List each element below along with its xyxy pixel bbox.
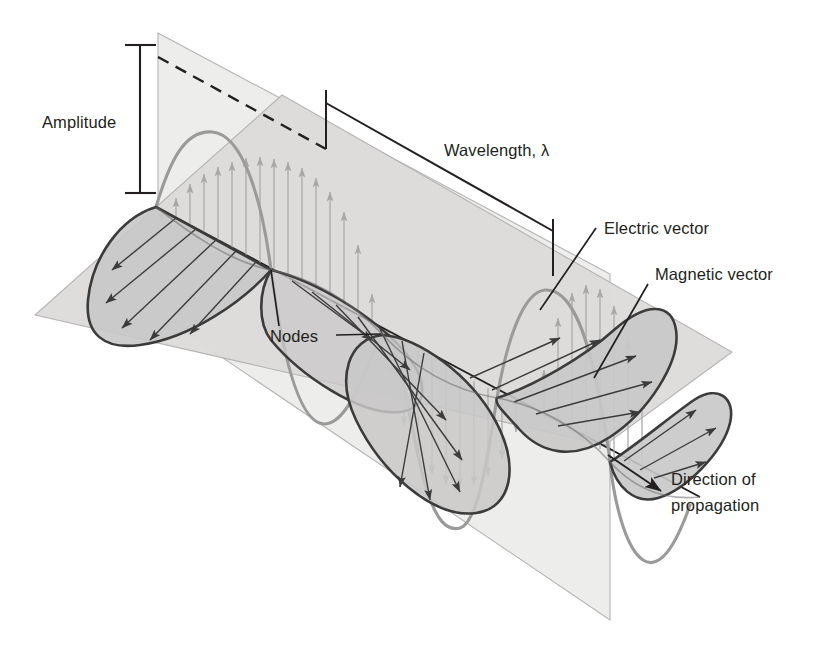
diagram-canvas: Amplitude Wavelength, λ Electric vector … [0,0,825,657]
wavelength-label: Wavelength, λ [444,141,550,159]
nodes-label: Nodes [270,327,318,345]
direction-of-propagation-label-line1: Direction of [671,470,756,488]
direction-of-propagation-label-line2: propagation [671,496,759,514]
magnetic-vector-label: Magnetic vector [655,265,773,283]
amplitude-label: Amplitude [42,113,116,131]
em-wave-svg: Amplitude Wavelength, λ Electric vector … [0,0,825,657]
electric-vector-label: Electric vector [604,219,710,237]
amplitude-bracket [125,45,156,193]
